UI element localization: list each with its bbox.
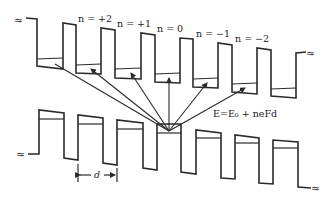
label-n-0: n = 0: [157, 23, 183, 34]
break-symbol-left-top: ≈: [14, 14, 23, 27]
energy-formula: E=E₀ + neFd: [213, 108, 277, 119]
arrow-extra-left: [55, 64, 169, 131]
arrow-to-n-minus-1: [169, 83, 207, 131]
stark-ladder-diagram: ≈ ≈ n = +2 n = +1 n = 0 n = −1 n = −2 ≈ …: [0, 0, 336, 201]
label-n-plus-2: n = +2: [78, 13, 112, 24]
label-n-plus-1: n = +1: [117, 18, 151, 29]
period-marker: d: [78, 164, 117, 182]
period-label: d: [94, 169, 100, 180]
label-n-minus-1: n = −1: [196, 28, 230, 39]
lower-band-profile: ≈ ≈: [16, 110, 320, 195]
break-symbol-right-bottom: ≈: [311, 182, 320, 195]
break-symbol-right-top: ≈: [306, 47, 315, 60]
break-symbol-left-bottom: ≈: [16, 148, 25, 161]
label-n-minus-2: n = −2: [235, 33, 269, 44]
